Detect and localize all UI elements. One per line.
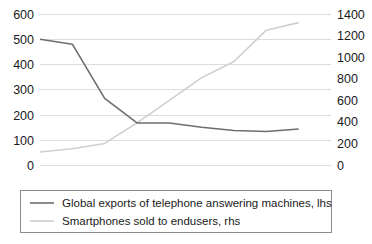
right-tick-label: 400 <box>337 115 358 129</box>
left-tick-label: 300 <box>13 83 34 97</box>
left-tick-label: 500 <box>13 33 34 47</box>
left-tick-label: 100 <box>13 134 34 148</box>
dual-axis-line-chart: 600 500 400 300 200 100 0 1400 1200 1000… <box>0 0 372 244</box>
left-tick-label: 0 <box>27 159 34 173</box>
legend-label-telephone-answering-machines: Global exports of telephone answering ma… <box>62 197 332 209</box>
right-tick-label: 600 <box>337 94 358 108</box>
legend-label-smartphones: Smartphones sold to endusers, rhs <box>62 215 241 227</box>
right-tick-label: 1400 <box>337 8 365 22</box>
chart-container: 600 500 400 300 200 100 0 1400 1200 1000… <box>0 0 372 244</box>
right-tick-label: 1200 <box>337 29 365 43</box>
right-tick-label: 800 <box>337 72 358 86</box>
left-tick-label: 400 <box>13 58 34 72</box>
left-tick-label: 600 <box>13 8 34 22</box>
left-tick-label: 200 <box>13 109 34 123</box>
right-tick-label: 1000 <box>337 51 365 65</box>
right-tick-label: 200 <box>337 137 358 151</box>
right-tick-label: 0 <box>337 159 344 173</box>
